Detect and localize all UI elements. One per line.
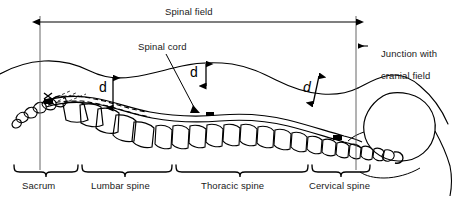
lumbar-vertebrae (63, 102, 154, 148)
junction-label-line1: Junction with (381, 48, 437, 59)
depth-label-d3: d (303, 79, 311, 95)
region-label-sacrum: Sacrum (22, 180, 55, 191)
junction-label-line2: cranial field (381, 70, 430, 81)
bracket-sacrum (14, 165, 78, 177)
spinal-field-label: Spinal field (165, 6, 213, 17)
depth-arrow-3 (313, 76, 319, 104)
region-brackets (14, 165, 370, 177)
depth-label-d2: d (190, 64, 198, 80)
spinal-cord-label: Spinal cord (138, 41, 187, 52)
diagram-canvas (0, 0, 454, 201)
bracket-thoracic (176, 165, 308, 177)
region-label-lumbar-spine: Lumbar spine (91, 180, 150, 191)
depth-label-d1: d (99, 79, 107, 95)
bracket-cervical (312, 165, 370, 177)
spinal-field-diagram: Spinal field Spinal cord Junction with c… (0, 0, 454, 201)
spinal-cord-leader-line (166, 54, 200, 113)
junction-label: Junction with cranial field (370, 37, 437, 92)
region-label-thoracic-spine: Thoracic spine (201, 180, 264, 191)
bracket-lumbar (82, 165, 172, 177)
region-label-cervical-spine: Cervical spine (309, 180, 370, 191)
